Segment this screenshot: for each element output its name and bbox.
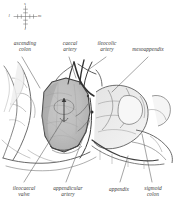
leader-caecal-artery: [69, 57, 76, 78]
leader-ascending-colon: [22, 57, 40, 88]
leader-mesoappendix: [112, 57, 148, 92]
leader-lines: [0, 0, 173, 202]
label-ileocaecal-valve: ileocaecal valve: [1, 185, 47, 197]
label-caecal-artery: caecal artery: [52, 40, 88, 52]
leader-appendix: [120, 156, 128, 182]
label-ascending-colon: ascending colon: [1, 40, 49, 52]
label-appendix: appendix: [99, 186, 139, 192]
leader-ileocolic-artery: [88, 57, 106, 70]
label-ileocolic-artery: ileocolic artery: [89, 40, 125, 52]
leader-sigmoid-colon: [142, 134, 152, 182]
anatomical-figure: s i l m: [0, 0, 173, 202]
label-mesoappendix: mesoappendix: [124, 46, 172, 52]
label-appendicular-artery: appendicular artery: [44, 185, 92, 197]
leader-appendicular-artery: [66, 120, 90, 182]
label-sigmoid-colon: sigmoid colon: [134, 185, 172, 197]
leader-ileocaecal-valve: [24, 118, 64, 182]
